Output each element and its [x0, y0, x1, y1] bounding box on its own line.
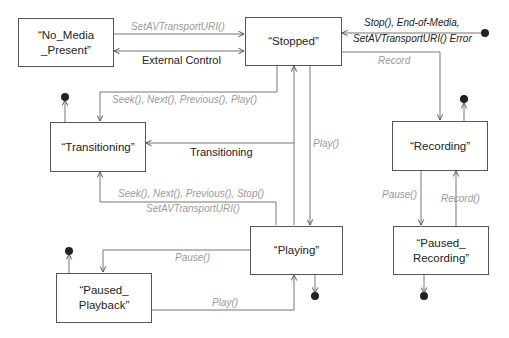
initial-node-icon	[481, 29, 489, 37]
state-paused-playback: “Paused_ Playback”	[56, 273, 152, 323]
state-recording: “Recording”	[392, 121, 488, 171]
label-stop-eom-line1: Stop(), End-of-Media,	[364, 17, 460, 29]
label-transitioning: Transitioning	[190, 146, 253, 159]
label-pause-recording: Pause()	[382, 189, 417, 201]
final-node-icon	[61, 93, 69, 101]
label-play-from-stopped: Play()	[313, 138, 339, 150]
label-stop-eom-line2: SetAVTransportURI() Error	[353, 33, 472, 45]
state-transitioning: “Transitioning”	[50, 122, 146, 172]
state-paused-recording: “Paused_ Recording”	[393, 226, 489, 275]
label-record: Record	[378, 55, 410, 67]
label-pause-playback: Pause()	[175, 252, 210, 264]
final-node-icon	[311, 292, 319, 300]
label-play-from-paused: Play()	[212, 297, 238, 309]
edge-stopped-to-transitioning	[100, 65, 277, 121]
label-seek-stop-line1: Seek(), Next(), Previous(), Stop()	[118, 188, 264, 200]
label-seek-play: Seek(), Next(), Previous(), Play()	[112, 94, 257, 106]
label-record-resume: Record()	[441, 193, 480, 205]
label-seek-stop-line2: SetAVTransportURI()	[146, 203, 240, 215]
final-node-icon	[65, 247, 73, 255]
state-playing: “Playing”	[250, 226, 343, 275]
label-external-control: External Control	[142, 54, 221, 67]
state-stopped: “Stopped”	[245, 17, 342, 66]
label-set-uri: SetAVTransportURI()	[131, 21, 225, 33]
final-node-icon	[460, 95, 468, 103]
final-node-icon	[420, 292, 428, 300]
state-no-media-present: “No_Media _Present”	[18, 18, 114, 67]
